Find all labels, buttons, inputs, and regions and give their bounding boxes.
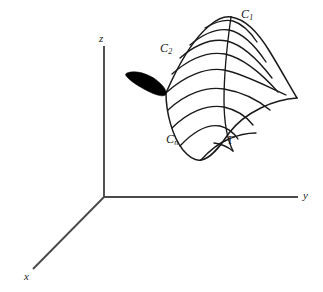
boundary-curve-gamma [224,17,233,151]
curve-label-c2: C2 [160,42,172,54]
figure-container: z y x C1 C2 Cn Γ [0,0,323,292]
curve-label-cn-sub: n [174,138,178,147]
curve-label-cn-base: C [166,132,174,146]
y-axis-label: y [303,190,308,201]
surface-edge-upper-right [231,17,297,98]
curve-label-c1-base: C [241,7,249,21]
boundary-label-gamma: Γ [228,134,235,146]
cusp-blob-group [126,72,167,96]
level-curve-7 [172,106,253,128]
x-axis-line [33,197,104,269]
z-axis-label: z [99,33,103,44]
axes-group [33,46,298,269]
black-cusp-blob [126,72,167,96]
surface-edge-lower-right [201,98,297,160]
curve-label-c1-sub: 1 [249,13,253,22]
surface-edge-lower-left [166,93,201,160]
surface-edge-upper-left [166,17,231,93]
curve-label-c1: C1 [241,8,253,20]
curve-label-c2-base: C [160,41,168,55]
curve-label-c2-sub: 2 [168,47,172,56]
curve-label-cn: Cn [166,133,178,145]
x-axis-label: x [24,271,29,282]
